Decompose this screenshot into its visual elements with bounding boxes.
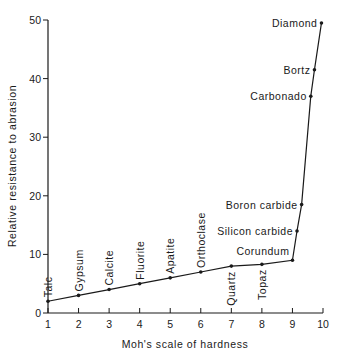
- plot-area: TalcGypsumCalciteFluoriteApatiteOrthocla…: [42, 17, 323, 306]
- point-label: Apatite: [164, 238, 176, 274]
- data-line: [48, 23, 321, 301]
- x-tick-label: 2: [76, 318, 82, 330]
- x-tick-label: 9: [290, 318, 296, 330]
- y-tick-label: 10: [29, 248, 41, 260]
- data-point: [291, 258, 295, 262]
- point-label: Quartz: [225, 271, 237, 306]
- data-point: [77, 294, 81, 298]
- point-label: Topaz: [256, 269, 268, 300]
- data-point: [107, 288, 111, 292]
- point-label: Fluorite: [134, 241, 146, 280]
- data-point: [230, 264, 234, 268]
- x-tick-label: 5: [167, 318, 173, 330]
- y-tick-label: 0: [35, 307, 41, 319]
- point-label: Boron carbide: [226, 199, 298, 211]
- point-label: Gypsum: [73, 249, 85, 291]
- x-tick-label: 7: [228, 318, 234, 330]
- x-tick-label: 10: [317, 318, 329, 330]
- y-axis-label: Relative resistance to abrasion: [6, 85, 18, 247]
- x-tick-label: 6: [198, 318, 204, 330]
- x-tick-label: 3: [106, 318, 112, 330]
- point-label: Orthoclase: [195, 212, 207, 268]
- y-tick-label: 40: [29, 73, 41, 85]
- point-label: Silicon carbide: [217, 225, 293, 237]
- point-label: Calcite: [103, 250, 115, 286]
- data-point: [46, 299, 50, 303]
- data-point: [309, 94, 313, 98]
- point-label: Bortz: [283, 64, 310, 76]
- data-point: [313, 68, 317, 72]
- point-label: Diamond: [272, 17, 318, 29]
- data-point: [168, 276, 172, 280]
- point-label: Corundum: [236, 245, 289, 257]
- data-point: [295, 229, 299, 233]
- x-tick-label: 8: [259, 318, 265, 330]
- data-point: [300, 203, 304, 207]
- x-axis-label: Moh's scale of hardness: [122, 338, 249, 350]
- y-tick-label: 50: [29, 14, 41, 26]
- point-label: Talc: [42, 277, 54, 298]
- x-tick-label: 1: [45, 318, 51, 330]
- y-tick-label: 20: [29, 190, 41, 202]
- hardness-chart: 1234567891001020304050 TalcGypsumCalcite…: [0, 0, 341, 356]
- x-tick-label: 4: [137, 318, 143, 330]
- point-label: Carbonado: [250, 90, 306, 102]
- data-point: [138, 282, 142, 286]
- data-point: [199, 270, 203, 274]
- data-point: [320, 21, 324, 25]
- data-point: [260, 263, 264, 267]
- y-tick-label: 30: [29, 131, 41, 143]
